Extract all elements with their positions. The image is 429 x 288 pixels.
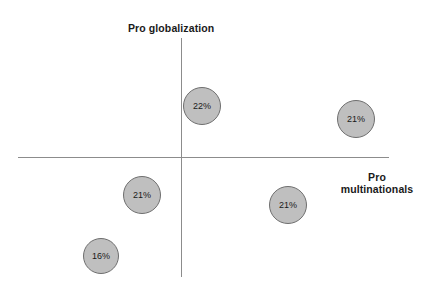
data-bubble-label: 21% [279, 201, 297, 210]
data-bubble[interactable]: 22% [183, 87, 221, 125]
data-bubble-label: 21% [347, 115, 365, 124]
horizontal-axis-line [18, 157, 389, 158]
y-axis-title: Pro globalization [128, 22, 214, 34]
data-bubble-label: 16% [92, 252, 110, 261]
data-bubble[interactable]: 21% [269, 186, 307, 224]
vertical-axis-line [181, 38, 182, 277]
data-bubble-label: 21% [133, 191, 151, 200]
x-axis-title: Pro multinationals [337, 171, 417, 195]
data-bubble[interactable]: 16% [83, 238, 119, 274]
data-bubble[interactable]: 21% [123, 176, 161, 214]
x-axis-title-line-2: multinationals [337, 183, 417, 195]
data-bubble-label: 22% [193, 102, 211, 111]
data-bubble[interactable]: 21% [337, 100, 375, 138]
bubble-quadrant-chart: Pro globalization Pro multinationals 22%… [0, 0, 429, 288]
x-axis-title-line-1: Pro [337, 171, 417, 183]
